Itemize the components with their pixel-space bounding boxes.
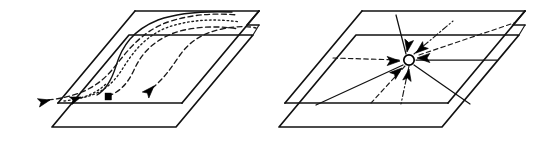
arrowhead-from-south — [403, 68, 413, 81]
ray-south-east — [414, 65, 470, 104]
left-panel — [37, 11, 259, 127]
notch-step-lower — [519, 25, 525, 35]
upper-plane-left-edge — [58, 11, 135, 103]
ray-east-upper — [419, 23, 514, 55]
origin-arrowhead-1 — [37, 96, 51, 107]
right-panel-notch — [513, 11, 525, 35]
diagram-canvas — [0, 0, 547, 141]
trajectory-4 — [97, 12, 232, 95]
lower-plane-outline — [52, 35, 253, 127]
ray-south-west — [316, 65, 403, 105]
left-panel-notch — [247, 11, 259, 35]
origin-square-marker — [105, 93, 112, 100]
arrowhead-from-south-west — [390, 65, 405, 80]
trajectory-2 — [80, 20, 240, 98]
lower-plane-outline — [279, 35, 519, 127]
figure-root — [0, 0, 547, 141]
convergence-node — [404, 55, 414, 65]
right-panel — [279, 11, 525, 127]
left-panel-lower-plane — [52, 35, 253, 127]
arrowhead-from-west — [387, 56, 400, 65]
right-panel-lower-plane — [279, 35, 519, 127]
notch-step-lower — [253, 25, 259, 35]
notch-step-upper — [513, 11, 525, 25]
notch-step-upper — [247, 11, 259, 25]
